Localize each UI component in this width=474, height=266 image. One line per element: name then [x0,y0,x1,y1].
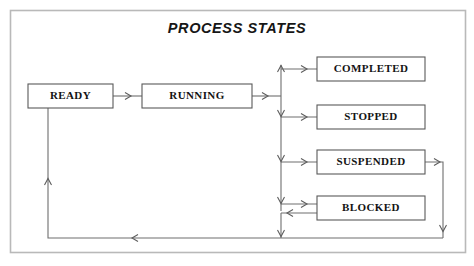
state-label-stopped: STOPPED [344,110,397,122]
edge-suspended-to-ready [425,159,447,239]
edge-branch-to-stopped [278,110,318,121]
edge-blocked-to-branch [281,210,317,217]
diagram-title: PROCESS STATES [168,20,306,36]
state-label-running: RUNNING [169,89,224,101]
edge-branch-to-bottom-rail [278,213,285,238]
state-label-completed: COMPLETED [334,62,409,74]
edge-branch-to-blocked [278,197,318,208]
diagram-canvas: PROCESS STATES [0,0,474,266]
state-node-stopped[interactable]: STOPPED [317,105,425,129]
branch-spine [278,65,285,211]
state-node-running[interactable]: RUNNING [142,84,252,108]
edge-running-to-branch [252,93,281,100]
state-boxes: READY RUNNING COMPLETED STOPPED SUSPENDE… [28,57,425,220]
state-label-ready: READY [50,89,91,101]
state-node-ready[interactable]: READY [28,84,113,108]
state-label-suspended: SUSPENDED [336,155,405,167]
process-states-diagram: PROCESS STATES [0,0,474,266]
state-node-suspended[interactable]: SUSPENDED [317,150,425,174]
state-node-blocked[interactable]: BLOCKED [317,196,425,220]
state-label-blocked: BLOCKED [342,201,400,213]
edge-branch-to-completed [281,66,317,73]
edge-ready-to-running [113,93,142,100]
state-node-completed[interactable]: COMPLETED [317,57,425,81]
edge-branch-to-suspended [278,155,318,166]
